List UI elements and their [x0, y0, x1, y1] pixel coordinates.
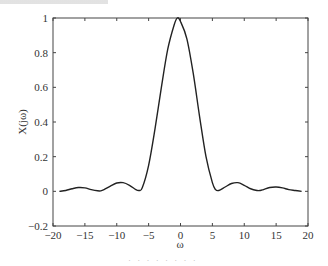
axis-ticks: −20−15−10−505101520−0.200.20.40.60.81: [28, 12, 314, 241]
y-tick-label: 0: [43, 185, 49, 197]
data-line: [59, 18, 301, 192]
x-axis-label: ω: [176, 238, 183, 250]
line-chart: −20−15−10−505101520−0.200.20.40.60.81 ω …: [0, 0, 328, 266]
x-tick-label: 15: [271, 229, 283, 241]
series-line: [59, 18, 301, 192]
figure-caption: · · · · · · · ·: [128, 255, 198, 265]
x-tick-label: −10: [108, 229, 126, 241]
plot-frame: [53, 18, 308, 226]
x-tick-label: 5: [210, 229, 216, 241]
x-tick-label: −5: [143, 229, 155, 241]
x-tick-label: 20: [303, 229, 315, 241]
y-tick-label: −0.2: [28, 220, 48, 232]
y-axis-label: X(jω): [16, 109, 29, 135]
y-tick-label: 0.8: [34, 47, 48, 59]
axes-box: [53, 18, 308, 226]
y-tick-label: 0.4: [34, 116, 48, 128]
y-tick-label: 0.2: [34, 151, 48, 163]
y-tick-label: 0.6: [34, 81, 48, 93]
x-tick-label: −15: [76, 229, 94, 241]
x-tick-label: 10: [239, 229, 251, 241]
y-tick-label: 1: [43, 12, 49, 24]
